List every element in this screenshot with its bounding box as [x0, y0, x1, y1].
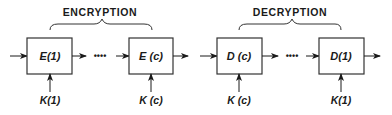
block-ec-label: E (c)	[139, 50, 163, 62]
ellipsis: ••••	[286, 51, 299, 61]
encryption-title: ENCRYPTION	[63, 6, 137, 18]
key-k1: K(1)	[331, 94, 352, 106]
encryption-brace	[50, 19, 152, 30]
cipher-cascade-diagram: ENCRYPTION E(1) •••• E (c) K(1) K (c) DE…	[0, 0, 392, 115]
ellipsis: ••••	[94, 51, 107, 61]
block-dc-label: D (c)	[227, 50, 252, 62]
block-e1-label: E(1)	[40, 50, 61, 62]
key-kc: K (c)	[227, 94, 251, 106]
key-k1: K(1)	[40, 94, 61, 106]
decryption-section: DECRYPTION D (c) •••• D(1) K (c) K(1)	[200, 6, 380, 106]
decryption-title: DECRYPTION	[253, 6, 327, 18]
decryption-brace	[239, 19, 341, 30]
key-kc: K (c)	[139, 94, 163, 106]
encryption-section: ENCRYPTION E(1) •••• E (c) K(1) K (c)	[10, 6, 188, 106]
block-d1-label: D(1)	[330, 50, 352, 62]
